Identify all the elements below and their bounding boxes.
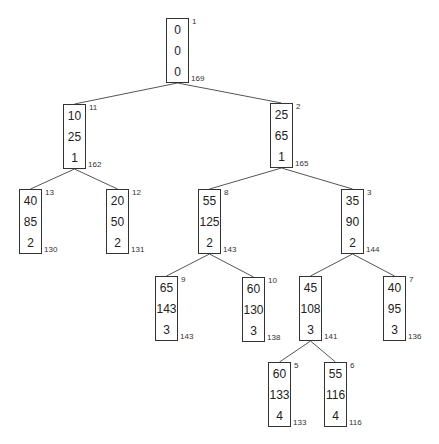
tree-node: 25 65 1 [270,103,293,168]
node-value-3: 3 [391,323,398,337]
node-order-label: 2 [296,102,300,111]
tree-edge [311,341,336,362]
tree-edge [75,169,118,189]
node-value-1: 10 [68,109,81,123]
node-bound-label: 116 [349,418,362,427]
node-bound-label: 169 [191,74,204,83]
node-bound-label: 136 [408,332,421,341]
node-order-label: 3 [367,188,371,197]
tree-node: 60 133 4 [268,362,291,427]
node-value-2: 25 [68,130,81,144]
tree-node: 35 90 2 [341,189,364,254]
node-value-3: 1 [278,150,285,164]
node-value-1: 25 [275,108,288,122]
node-value-2: 125 [199,215,219,229]
node-value-3: 2 [114,236,121,250]
node-order-label: 7 [409,275,413,284]
node-value-2: 90 [346,215,359,229]
tree-node: 45 108 3 [299,276,322,341]
node-value-2: 85 [24,215,37,229]
tree-node: 40 85 2 [19,189,42,254]
node-value-3: 2 [206,236,213,250]
node-value-2: 143 [156,302,176,316]
node-value-2: 95 [388,302,401,316]
tree-node: 55 116 4 [324,362,347,427]
node-value-2: 116 [326,388,345,402]
node-value-1: 55 [329,367,342,381]
node-value-1: 20 [111,194,124,208]
node-bound-label: 143 [223,245,236,254]
node-value-2: 0 [174,44,181,58]
node-value-3: 4 [332,409,339,423]
tree-edge [311,254,353,276]
node-bound-label: 138 [267,333,280,342]
node-value-1: 35 [346,194,359,208]
node-value-3: 2 [27,236,34,250]
branch-and-bound-tree: 0 0 0 1 169 10 25 1 11 162 25 65 1 2 165… [0,0,439,444]
tree-node: 20 50 2 [106,189,129,254]
tree-node: 10 25 1 [63,104,86,169]
node-bound-label: 143 [180,332,193,341]
node-value-1: 0 [174,23,181,37]
node-bound-label: 130 [44,245,57,254]
node-order-label: 9 [181,275,185,284]
tree-edge [178,83,282,103]
node-value-3: 0 [174,65,181,79]
node-value-2: 50 [111,215,124,229]
tree-edge [31,169,75,189]
tree-node: 40 95 3 [383,276,406,341]
tree-node: 0 0 0 [166,18,189,83]
node-order-label: 8 [224,188,228,197]
node-value-1: 45 [304,281,317,295]
node-value-1: 40 [388,281,401,295]
node-bound-label: 162 [88,160,101,169]
node-order-label: 1 [192,17,196,26]
node-value-3: 3 [250,324,257,338]
node-value-1: 40 [24,194,37,208]
node-value-1: 60 [247,282,260,296]
tree-edge [75,83,178,104]
node-value-2: 130 [243,303,263,317]
node-bound-label: 141 [324,332,337,341]
node-bound-label: 144 [366,245,379,254]
tree-edge [167,254,210,276]
node-value-2: 65 [275,129,288,143]
node-value-2: 133 [269,388,289,402]
node-order-label: 10 [268,276,277,285]
tree-edge [210,254,254,277]
tree-node: 65 143 3 [155,276,178,341]
node-value-3: 1 [71,151,78,165]
tree-node: 60 130 3 [242,277,265,342]
node-value-1: 65 [160,281,173,295]
node-value-3: 3 [307,323,314,337]
node-value-2: 108 [300,302,320,316]
node-bound-label: 165 [295,159,308,168]
node-bound-label: 131 [131,245,144,254]
node-order-label: 5 [294,361,298,370]
tree-edge [280,341,311,362]
tree-edge [282,168,353,189]
node-order-label: 6 [350,361,354,370]
tree-edge [353,254,395,276]
node-order-label: 12 [132,188,141,197]
tree-node: 55 125 2 [198,189,221,254]
node-value-3: 4 [276,409,283,423]
node-order-label: 11 [89,103,97,112]
node-value-3: 2 [349,236,356,250]
node-order-label: 13 [45,188,54,197]
node-value-3: 3 [163,323,170,337]
tree-edge [210,168,282,189]
node-bound-label: 133 [293,418,306,427]
node-value-1: 55 [203,194,216,208]
node-value-1: 60 [273,367,286,381]
